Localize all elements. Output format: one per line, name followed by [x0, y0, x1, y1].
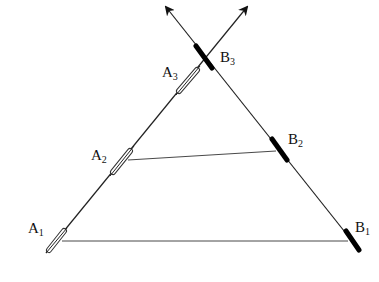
hollow-marker-a2	[110, 146, 134, 176]
label-b3: B3	[220, 50, 235, 67]
hollow-marker-a3	[176, 66, 200, 95]
segment-a2-b2	[128, 151, 276, 160]
label-b1: B1	[355, 220, 370, 237]
label-a1: A1	[28, 221, 44, 238]
filled-marker-b2	[272, 139, 287, 160]
filled-marker-b3	[196, 46, 212, 68]
ray-a	[46, 7, 247, 253]
hollow-marker-a1	[46, 228, 67, 253]
label-a2: A2	[91, 148, 107, 165]
triangle-diagram: A1 A2 A3 B1 B2 B3	[0, 0, 379, 282]
diagram-svg	[0, 0, 379, 282]
label-a3: A3	[162, 65, 178, 82]
ray-b	[166, 7, 360, 251]
label-b2: B2	[288, 132, 303, 149]
